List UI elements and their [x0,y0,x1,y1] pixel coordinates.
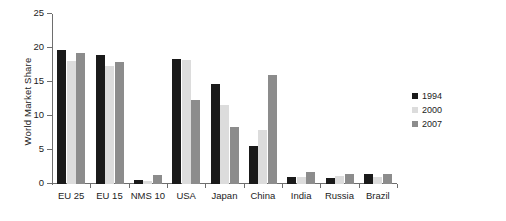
legend-swatch-icon [412,107,418,113]
y-axis-tick-label: 10 [33,109,44,120]
y-axis-line [52,14,53,185]
bar [76,53,85,184]
y-axis-tick: 0 [47,183,52,184]
bar-group [172,14,200,184]
bar [364,174,373,184]
y-axis-tick: 20 [47,47,52,48]
legend-swatch-icon [412,93,418,99]
legend-item: 2007 [412,117,442,131]
legend-item: 2000 [412,103,442,117]
bar [57,50,66,184]
bar [143,181,152,184]
legend-item: 1994 [412,89,442,103]
bar [383,174,392,184]
y-axis-tick-label: 25 [33,7,44,18]
x-axis-tick [282,184,283,188]
bar [172,59,181,184]
y-axis-title: World Market Share [22,17,33,187]
x-axis-label: Japan [205,190,243,201]
bar-group [364,14,392,184]
bar-group [287,14,315,184]
x-axis-tick [359,184,360,188]
bar [182,60,191,184]
bar [134,180,143,184]
x-axis-tick [397,184,398,188]
x-axis-label: Brazil [359,190,397,201]
bar [335,176,344,184]
x-axis-tick [90,184,91,188]
x-axis-tick [320,184,321,188]
bar [96,55,105,184]
bar-group [249,14,277,184]
y-axis-tick: 25 [47,13,52,14]
bar [115,62,124,184]
bar-group [326,14,354,184]
chart-legend: 199420002007 [412,89,442,131]
bar-group [57,14,85,184]
bar-chart: World Market Share 0510152025 1994200020… [0,0,506,221]
bar [297,177,306,184]
bar [153,175,162,184]
bar [326,178,335,184]
x-axis-label: Russia [320,190,358,201]
y-axis-tick-label: 0 [39,177,44,188]
bar-group [134,14,162,184]
x-axis-tick [167,184,168,188]
bar-group [211,14,239,184]
y-axis-tick-label: 15 [33,75,44,86]
bar [258,130,267,184]
bar [191,100,200,184]
x-axis-label: EU 25 [52,190,90,201]
bar [287,177,296,184]
legend-label: 2007 [422,120,442,129]
y-axis-tick: 15 [47,81,52,82]
x-axis-label: NMS 10 [129,190,167,201]
x-axis-label: EU 15 [90,190,128,201]
bar [211,84,220,184]
bar [268,75,277,184]
y-axis-tick-label: 5 [39,143,44,154]
x-axis-label: China [244,190,282,201]
bar [67,61,76,184]
y-axis-tick-label: 20 [33,41,44,52]
y-axis-tick: 10 [47,115,52,116]
x-axis-label: USA [167,190,205,201]
x-axis-tick [205,184,206,188]
x-axis-tick [129,184,130,188]
legend-label: 1994 [422,92,442,101]
bar [345,174,354,184]
x-axis-label: India [282,190,320,201]
y-axis-tick: 5 [47,149,52,150]
legend-swatch-icon [412,121,418,127]
bar [249,146,258,184]
bar [220,105,229,184]
bar [230,127,239,184]
bar-group [96,14,124,184]
x-axis-tick [244,184,245,188]
bar [306,172,315,184]
bar [105,66,114,184]
legend-label: 2000 [422,106,442,115]
bar [373,177,382,184]
plot-area: 0510152025 [52,14,397,184]
